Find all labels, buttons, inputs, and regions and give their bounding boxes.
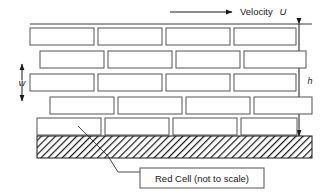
red-cell [234,28,296,45]
red-cell [241,118,297,135]
red-cell-group [30,28,312,135]
height-symbol-label: h [307,76,312,86]
red-cell [118,97,182,114]
red-cell [108,51,172,68]
width-symbol-label: w [19,78,26,88]
red-cell [37,118,101,135]
caption-label: Red Cell (not to scale) [155,173,249,184]
red-cell [166,28,230,45]
red-cell [40,51,104,68]
red-cell [166,74,230,91]
red-cell-flow-diagram: Velocity U h w Red Cell (not to scale) [0,0,334,194]
red-cell [186,97,250,114]
velocity-label: Velocity U [240,6,286,17]
red-cell [176,51,240,68]
red-cell [105,118,169,135]
red-cell [98,74,162,91]
red-cell [234,74,296,91]
vessel-wall-hatched [37,136,312,158]
red-cell [98,28,162,45]
red-cell [254,97,312,114]
velocity-label-text: Velocity [240,6,273,17]
red-cell [30,28,94,45]
red-cell [30,74,94,91]
red-cell [244,51,306,68]
diagram-canvas: Velocity U h w Red Cell (not to scale) [0,0,334,194]
red-cell [173,118,237,135]
velocity-symbol: U [279,6,286,17]
red-cell [50,97,114,114]
